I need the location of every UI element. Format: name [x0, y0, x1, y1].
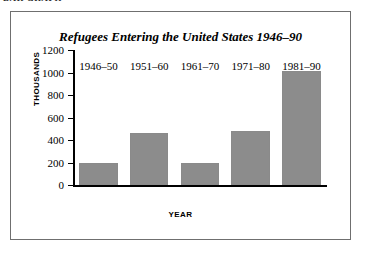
chart-title: Refugees Entering the United States 1946… [11, 29, 350, 45]
y-axis-title: THOUSANDS [32, 52, 41, 106]
bar [231, 131, 270, 185]
y-tick-label: 400 [48, 134, 65, 146]
x-axis-title: YEAR [11, 210, 350, 219]
y-tick-label: 0 [59, 179, 65, 191]
y-tick-label: 600 [48, 112, 65, 124]
bar [79, 163, 118, 185]
x-tick-label: 1971–80 [232, 60, 271, 72]
bar [130, 133, 169, 185]
x-tick-label: 1946–50 [79, 60, 118, 72]
chart-card: Refugees Entering the United States 1946… [10, 11, 351, 240]
section-heading: BAR GRAPH [3, 0, 62, 3]
x-tick-label: 1961–70 [181, 60, 220, 72]
bar [181, 163, 220, 185]
x-tick-label: 1981–90 [282, 60, 321, 72]
y-tick-mark [68, 50, 75, 51]
y-tick-mark [68, 140, 75, 141]
x-axis-line [73, 185, 327, 187]
bar [282, 71, 321, 185]
y-tick-mark [68, 95, 75, 96]
y-tick-mark [68, 73, 75, 74]
x-tick-label: 1951–60 [130, 60, 169, 72]
plot-area: 120010008006004002000 1946–501951–601961… [73, 50, 327, 185]
y-tick-label: 1000 [42, 67, 64, 79]
y-tick-label: 800 [48, 89, 65, 101]
y-tick-label: 1200 [42, 44, 64, 56]
y-tick-mark [68, 185, 75, 186]
y-tick-label: 200 [48, 157, 65, 169]
y-tick-mark [68, 118, 75, 119]
y-tick-mark [68, 163, 75, 164]
